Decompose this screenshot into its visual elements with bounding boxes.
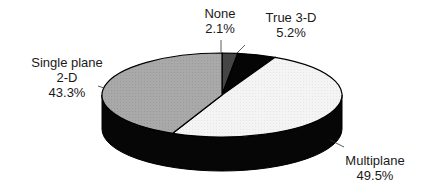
- label-multiplane-value: 49.5%: [335, 168, 415, 183]
- label-single-plane-2d: Single plane 2-D 43.3%: [22, 55, 112, 100]
- pie-top-slices: [102, 53, 342, 137]
- label-none-value: 2.1%: [200, 21, 240, 36]
- label-none: None 2.1%: [200, 6, 240, 36]
- label-single-plane-name: Single plane: [22, 55, 112, 70]
- label-multiplane-name: Multiplane: [335, 153, 415, 168]
- label-single-plane-value: 43.3%: [22, 85, 112, 100]
- label-true-3d: True 3-D 5.2%: [256, 10, 326, 40]
- label-true-3d-value: 5.2%: [256, 25, 326, 40]
- label-true-3d-name: True 3-D: [256, 10, 326, 25]
- leader-line: [237, 45, 245, 53]
- label-single-plane-name-2: 2-D: [22, 70, 112, 85]
- label-multiplane: Multiplane 49.5%: [335, 153, 415, 183]
- label-none-name: None: [200, 6, 240, 21]
